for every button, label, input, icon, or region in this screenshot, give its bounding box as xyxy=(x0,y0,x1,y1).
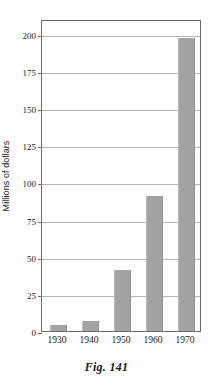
gridline xyxy=(42,73,200,74)
y-axis-tick xyxy=(38,296,42,297)
bar xyxy=(146,196,163,331)
bar xyxy=(178,38,195,331)
gridline xyxy=(42,184,200,185)
figure-caption: Fig. 141 xyxy=(0,360,213,375)
y-axis-tick-label: 25 xyxy=(27,291,36,300)
y-axis-tick xyxy=(38,333,42,334)
x-axis-tick-label: 1940 xyxy=(80,336,99,346)
y-axis-tick xyxy=(38,147,42,148)
y-axis-tick-label: 125 xyxy=(23,143,37,152)
y-axis-tick-label: 200 xyxy=(23,31,37,40)
y-axis-tick-label: 50 xyxy=(27,254,36,263)
y-axis-tick xyxy=(38,73,42,74)
plot-area: 0255075100125150175200 xyxy=(42,21,200,331)
y-axis-tick xyxy=(38,184,42,185)
bar xyxy=(114,270,131,331)
gridline xyxy=(42,147,200,148)
y-axis-tick xyxy=(38,259,42,260)
y-axis-tick-label: 100 xyxy=(23,180,37,189)
y-axis-tick xyxy=(38,36,42,37)
x-axis-tick-label: 1970 xyxy=(176,336,195,346)
x-axis-tick-label: 1960 xyxy=(144,336,163,346)
y-axis-tick xyxy=(38,110,42,111)
plot-frame: 0255075100125150175200 xyxy=(41,20,201,332)
bar xyxy=(50,325,67,331)
y-axis-tick-label: 0 xyxy=(32,329,37,338)
y-axis-tick xyxy=(38,222,42,223)
figure-container: Millions of dollars 02550751001251501752… xyxy=(0,0,213,386)
x-axis-tick-label: 1950 xyxy=(112,336,131,346)
gridline xyxy=(42,259,200,260)
gridline xyxy=(42,36,200,37)
gridline xyxy=(42,110,200,111)
y-axis-title: Millions of dollars xyxy=(1,141,11,212)
bar xyxy=(82,321,99,331)
y-axis-tick-label: 150 xyxy=(23,106,37,115)
y-axis-tick-label: 175 xyxy=(23,69,37,78)
x-axis-tick-label: 1930 xyxy=(48,336,67,346)
y-axis-tick-label: 75 xyxy=(27,217,36,226)
gridline xyxy=(42,222,200,223)
